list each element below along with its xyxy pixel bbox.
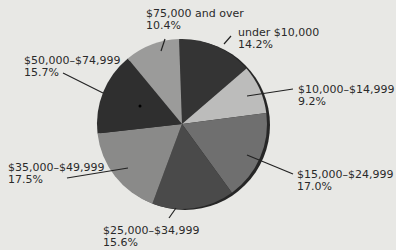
slice-label-percent: 9.2% — [298, 96, 394, 108]
leader-line-3 — [169, 208, 176, 218]
slice-label-percent: 17.5% — [8, 174, 104, 186]
slice-label-percent: 10.4% — [146, 20, 244, 32]
slice-label: $10,000–$14,9999.2% — [298, 84, 394, 108]
slice-label-percent: 17.0% — [297, 181, 393, 193]
slice-label: under $10,00014.2% — [238, 27, 319, 51]
slice-label-percent: 15.6% — [103, 237, 199, 249]
slice-label-percent: 15.7% — [24, 67, 120, 79]
slice-label: $15,000–$24,99917.0% — [297, 169, 393, 193]
dot-mark — [139, 105, 142, 108]
pie-chart — [0, 0, 396, 250]
slice-label-percent: 14.2% — [238, 39, 319, 51]
slice-label: $50,000–$74,99915.7% — [24, 55, 120, 79]
slice-label: $35,000–$49,99917.5% — [8, 162, 104, 186]
slice-label: $25,000–$34,99915.6% — [103, 225, 199, 249]
leader-line-0 — [224, 36, 231, 44]
slice-label: $75,000 and over10.4% — [146, 8, 244, 32]
